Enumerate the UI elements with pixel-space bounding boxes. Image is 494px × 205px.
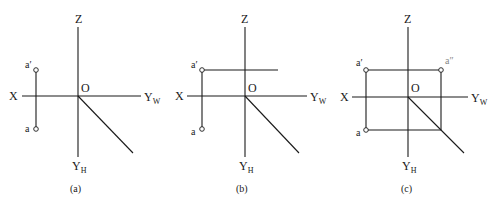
z-label: Z	[241, 12, 248, 26]
a-double-prime-label: a″	[445, 55, 454, 66]
yh-label: YH	[72, 159, 87, 175]
a-label: a	[25, 123, 30, 134]
figure-a: Z X O YW YH a′ a (a)	[9, 12, 161, 195]
yw-label: YW	[310, 90, 327, 106]
caption-b: (b)	[236, 183, 248, 195]
origin-label: O	[411, 81, 420, 95]
diagonal-45-line	[78, 96, 133, 153]
yh-label: YH	[402, 159, 417, 175]
diagonal-45-line	[408, 97, 464, 153]
figure-b: Z X O YW YH a′ a (b)	[175, 12, 327, 195]
point-a-double-prime	[439, 68, 444, 73]
point-a-prime	[200, 68, 205, 73]
point-a	[364, 128, 369, 133]
yh-label: YH	[239, 159, 254, 175]
point-a-prime	[34, 68, 39, 73]
yw-label: YW	[471, 91, 488, 107]
x-label: X	[340, 90, 349, 104]
x-label: X	[175, 89, 184, 103]
point-a-prime	[364, 68, 369, 73]
caption-c: (c)	[401, 183, 412, 195]
point-a	[200, 127, 205, 132]
a-label: a	[191, 126, 196, 137]
yw-label: YW	[144, 90, 161, 106]
origin-label: O	[248, 81, 257, 95]
a-prime-label: a′	[356, 57, 363, 68]
z-label: Z	[75, 12, 82, 26]
caption-a: (a)	[70, 183, 81, 195]
x-label: X	[9, 89, 18, 103]
projection-diagram: Z X O YW YH a′ a (a) Z X O YW YH a′ a (b…	[0, 0, 494, 205]
z-label: Z	[404, 12, 411, 26]
figure-c: Z X O YW YH a′ a a″ (c)	[340, 12, 488, 195]
a-prime-label: a′	[191, 59, 198, 70]
point-a	[34, 127, 39, 132]
diagonal-45-line	[245, 96, 299, 153]
origin-label: O	[81, 81, 90, 95]
a-label: a	[356, 127, 361, 138]
a-prime-label: a′	[25, 59, 32, 70]
